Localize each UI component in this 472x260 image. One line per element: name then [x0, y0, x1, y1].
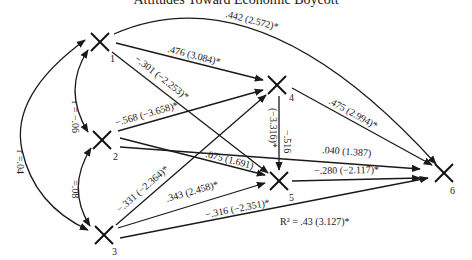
path-label-2-4: −.568 (−3.658)* [114, 99, 180, 129]
path-label-1-4: .476 (3.084)* [166, 43, 221, 68]
node-4: 4 [268, 76, 294, 103]
path-label-2-5: .075 (1.691) [204, 148, 255, 172]
node-5: 5 [270, 172, 294, 203]
path-label-2-6: .040 (1.387) [322, 144, 372, 159]
node-label-4: 4 [289, 92, 294, 103]
diagram-title: Attitudes Toward Economic Boycott [133, 0, 338, 7]
path-diagram: Attitudes Toward Economic Boycott r = −.… [0, 0, 472, 260]
path-label-4-5-t: (−3.316)* [267, 108, 279, 148]
path-label-5-6: −.280 (−2.117)* [314, 164, 379, 177]
node-label-1: 1 [110, 53, 115, 64]
correlation-arc-1-3 [20, 40, 88, 230]
r-squared-label: R² = .43 (3.127)* [280, 216, 349, 228]
node-1: 1 [91, 33, 115, 64]
node-2: 2 [93, 131, 118, 162]
node-label-6: 6 [450, 185, 455, 196]
node-3: 3 [95, 226, 117, 257]
path-5-6 [292, 178, 420, 181]
node-label-3: 3 [112, 246, 117, 257]
correlation-label-1-2: r = −.06 [70, 101, 81, 133]
correlation-label-2-3: =.08 [70, 180, 81, 198]
correlation-label-1-3: r =.04 [15, 150, 26, 174]
path-label-3-4: −.331 (−2.364)* [114, 163, 171, 215]
path-label-3-6: −.316 (−2.351)* [204, 197, 271, 221]
node-label-5: 5 [289, 192, 294, 203]
node-6: 6 [435, 164, 455, 196]
path-label-1-5: −.301 (−2.253)* [132, 53, 191, 103]
path-label-4-5-coef: −.516 [282, 130, 293, 153]
path-label-3-5: .343 (2.458)* [165, 178, 220, 204]
node-label-2: 2 [113, 151, 118, 162]
